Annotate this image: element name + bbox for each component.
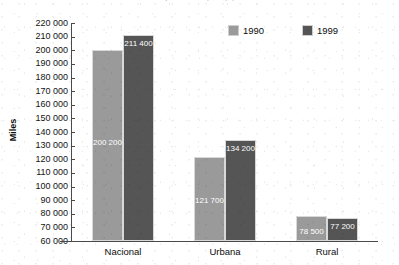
legend-item-1990[interactable]: 1990: [228, 25, 264, 36]
bar-value-label: 77 200: [328, 223, 357, 231]
y-axis-tick-label: 60 000: [6, 237, 68, 246]
bar-value-label: 78 500: [297, 228, 326, 236]
y-axis-tick-label: 100 000: [6, 182, 68, 191]
bar-value-label: 134 200: [226, 145, 255, 153]
bar-value-label: 211 400: [124, 40, 153, 48]
y-axis-tick-label: 120 000: [6, 155, 68, 164]
bar-urbana-1999[interactable]: 134 200: [225, 140, 256, 241]
bar-group: 78 50077 200: [296, 23, 358, 241]
legend-label: 1990: [243, 25, 264, 36]
y-axis-tick-label: 110 000: [6, 168, 68, 177]
y-axis-tick-label: 180 000: [6, 73, 68, 82]
x-axis-line: [60, 241, 378, 242]
y-axis-tick-label: 90 000: [6, 196, 68, 205]
bar-value-label: 200 200: [93, 139, 122, 147]
bar-chart: (cut off at top edge) 220 000210 000200 …: [0, 0, 399, 265]
y-axis-tick-label: 210 000: [6, 32, 68, 41]
y-axis-tick-label: 80 000: [6, 209, 68, 218]
bar-nacional-1999[interactable]: 211 400: [123, 35, 154, 241]
bar-urbana-1990[interactable]: 121 700: [194, 157, 225, 241]
y-axis-title: Miles: [8, 107, 18, 153]
legend-label: 1999: [317, 25, 338, 36]
bar-nacional-1990[interactable]: 200 200: [92, 50, 123, 241]
bar-rural-1990[interactable]: 78 500: [296, 216, 327, 241]
legend-swatch-1999: [302, 25, 313, 36]
bar-rural-1999[interactable]: 77 200: [327, 218, 358, 241]
x-axis-category-label: Nacional: [73, 246, 173, 257]
y-axis-tick-label: 170 000: [6, 87, 68, 96]
x-axis-category-label: Urbana: [175, 246, 275, 257]
bar-group: 200 200211 400: [92, 23, 154, 241]
plot-area: 200 200211 400121 700134 20078 50077 200: [72, 23, 378, 241]
y-axis-tick-label: 190 000: [6, 59, 68, 68]
bar-group: 121 700134 200: [194, 23, 256, 241]
bar-value-label: 121 700: [195, 197, 224, 205]
legend-swatch-1990: [228, 25, 239, 36]
y-axis-tick-label: 200 000: [6, 46, 68, 55]
y-axis-tick-label: 70 000: [6, 223, 68, 232]
y-axis-tick-label: 220 000: [6, 19, 68, 28]
legend-item-1999[interactable]: 1999: [302, 25, 338, 36]
x-axis-category-label: Rural: [277, 246, 377, 257]
